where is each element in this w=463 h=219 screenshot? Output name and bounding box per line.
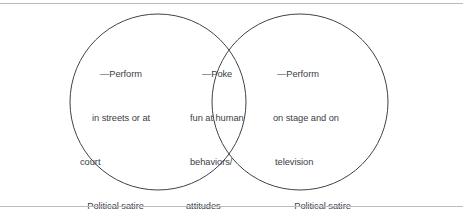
right-line-2: on stage and on [273, 111, 389, 126]
bottom-divider [0, 206, 463, 207]
right-line-1: —Perform [273, 67, 389, 82]
venn-region-right-only: —Perform on stage and on television —Pol… [273, 38, 389, 219]
venn-region-left-only: —Perform in streets or at court —Politic… [78, 38, 196, 219]
venn-diagram-figure: —Perform in streets or at court —Politic… [0, 0, 463, 219]
left-line-1: —Perform [78, 67, 196, 82]
left-line-3: court [78, 155, 196, 170]
right-line-3: television [273, 155, 389, 170]
left-line-2: in streets or at [78, 111, 196, 126]
